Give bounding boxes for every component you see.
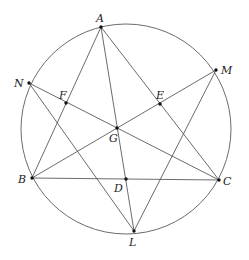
label-B: B bbox=[17, 173, 26, 186]
label-G: G bbox=[109, 132, 118, 145]
point-A bbox=[99, 25, 102, 28]
label-D: D bbox=[113, 182, 123, 195]
label-F: F bbox=[58, 89, 67, 102]
label-E: E bbox=[155, 89, 164, 102]
label-N: N bbox=[13, 77, 24, 90]
point-M bbox=[214, 68, 217, 71]
line-segments bbox=[29, 27, 219, 231]
point-G bbox=[115, 126, 118, 129]
segment-NL bbox=[29, 83, 134, 231]
point-C bbox=[217, 178, 220, 181]
point-D bbox=[124, 177, 127, 180]
point-N bbox=[27, 81, 30, 84]
circumcircle bbox=[21, 24, 231, 234]
label-C: C bbox=[223, 175, 232, 188]
segment-NC bbox=[29, 83, 219, 180]
label-M: M bbox=[220, 64, 233, 77]
label-L: L bbox=[128, 236, 136, 249]
point-E bbox=[158, 102, 161, 105]
point-L bbox=[132, 229, 135, 232]
label-A: A bbox=[95, 12, 104, 25]
geometry-diagram: ANMFEGBDCL bbox=[0, 0, 249, 260]
point-B bbox=[30, 176, 33, 179]
